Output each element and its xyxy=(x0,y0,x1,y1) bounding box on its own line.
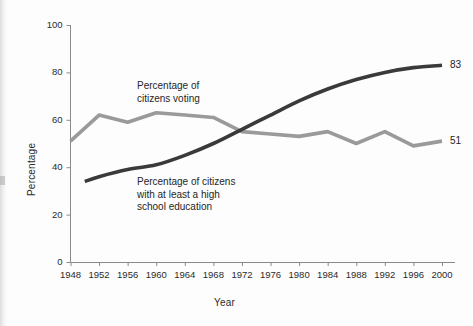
y-tick-label: 40 xyxy=(37,161,63,172)
x-axis-title: Year xyxy=(214,297,235,308)
series-end-value-voting: 51 xyxy=(450,135,461,146)
y-tick-label: 80 xyxy=(37,66,63,77)
y-tick-label: 60 xyxy=(37,114,63,125)
x-tick-label: 2000 xyxy=(425,269,459,280)
series-end-value-education: 83 xyxy=(450,59,461,70)
education-series-annotation: Percentage of citizens with at least a h… xyxy=(137,176,235,214)
y-tick-label: 20 xyxy=(37,209,63,220)
y-axis-title: Percentage xyxy=(26,143,37,196)
series-line-voting xyxy=(71,113,443,146)
y-tick-label: 0 xyxy=(37,256,63,267)
y-tick-label: 100 xyxy=(37,19,63,30)
voting-series-annotation: Percentage of citizens voting xyxy=(137,80,200,105)
chart-page: Percentage Year 020406080100 19481952195… xyxy=(0,0,473,326)
y-axis-ticks xyxy=(67,26,71,263)
